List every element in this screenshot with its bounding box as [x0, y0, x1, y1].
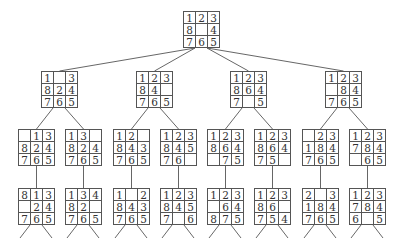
blank-tile: [90, 201, 102, 213]
tile: 3: [185, 189, 197, 201]
tile: 4: [43, 142, 55, 154]
tile: 8: [19, 142, 31, 154]
tile: 3: [374, 189, 386, 201]
tile: 4: [208, 24, 220, 36]
tile: 6: [185, 213, 197, 225]
tile: 4: [255, 84, 267, 96]
tile: 8: [208, 142, 220, 154]
tile: 1: [255, 130, 267, 142]
tile: 2: [173, 189, 185, 201]
tile: 2: [78, 201, 90, 213]
tile: 4: [173, 142, 185, 154]
tile: 7: [42, 96, 54, 108]
tile: 3: [350, 72, 362, 84]
tile: 8: [114, 142, 126, 154]
tree-edge: [231, 225, 241, 238]
tile: 3: [43, 130, 55, 142]
tile: 3: [78, 189, 90, 201]
puzzle-state-l1d: 12384765: [325, 71, 362, 108]
tile: 6: [315, 213, 327, 225]
tile: 1: [255, 189, 267, 201]
tile: 2: [54, 84, 66, 96]
tile: 1: [114, 130, 126, 142]
tile: 5: [232, 213, 244, 225]
tile: 4: [232, 142, 244, 154]
tile: 3: [279, 130, 291, 142]
tree-edge: [37, 108, 54, 129]
tile: 7: [184, 36, 196, 48]
puzzle-state-l3a: 81324765: [18, 188, 55, 225]
tile: 4: [90, 189, 102, 201]
tile: 7: [255, 154, 267, 166]
tree-edge: [256, 225, 266, 238]
tree-edge: [278, 225, 288, 238]
tile: 6: [362, 154, 374, 166]
tile: 2: [31, 142, 43, 154]
tile: 4: [232, 201, 244, 213]
tile: 3: [185, 130, 197, 142]
tile: 5: [66, 96, 78, 108]
puzzle-state-l2e: 12386475: [207, 129, 244, 166]
tile: 4: [90, 142, 102, 154]
tile: 5: [232, 154, 244, 166]
tile: 2: [126, 130, 138, 142]
tile: 1: [303, 201, 315, 213]
blank-tile: [208, 201, 220, 213]
tile: 6: [78, 213, 90, 225]
puzzle-state-root: 12384765: [183, 11, 220, 48]
tile: 7: [19, 154, 31, 166]
tile: 7: [350, 201, 362, 213]
tile: 2: [243, 72, 255, 84]
tile: 5: [327, 213, 339, 225]
puzzle-state-l2a: 13824765: [18, 129, 55, 166]
tile: 2: [138, 189, 150, 201]
blank-tile: [173, 213, 185, 225]
tile: 2: [315, 130, 327, 142]
puzzle-state-l1b: 12384765: [136, 71, 173, 108]
tile: 4: [149, 84, 161, 96]
tile: 8: [66, 201, 78, 213]
puzzle-state-l3b: 13482765: [65, 188, 102, 225]
tile: 1: [114, 189, 126, 201]
tile: 2: [362, 130, 374, 142]
tile: 6: [149, 96, 161, 108]
puzzle-state-l2f: 12386475: [254, 129, 291, 166]
tile: 4: [66, 84, 78, 96]
tree-edge: [65, 108, 84, 129]
tile: 3: [327, 189, 339, 201]
tile: 3: [138, 142, 150, 154]
tile: 5: [185, 201, 197, 213]
puzzle-state-l1a: 13824765: [41, 71, 78, 108]
tile: 3: [232, 189, 244, 201]
tile: 7: [231, 96, 243, 108]
tile: 3: [138, 201, 150, 213]
tile: 7: [303, 213, 315, 225]
tile: 6: [267, 201, 279, 213]
tree-edge: [137, 225, 147, 238]
blank-tile: [315, 189, 327, 201]
tree-edge: [115, 225, 125, 238]
tile: 7: [161, 154, 173, 166]
blank-tile: [185, 154, 197, 166]
puzzle-state-l3e: 12364875: [207, 188, 244, 225]
blank-tile: [350, 154, 362, 166]
puzzle-state-l3h: 12378465: [349, 188, 386, 225]
tile: 3: [43, 189, 55, 201]
tile: 3: [66, 72, 78, 84]
tile: 7: [255, 213, 267, 225]
tile: 5: [90, 154, 102, 166]
tile: 8: [315, 201, 327, 213]
tile: 4: [327, 142, 339, 154]
tile: 5: [350, 96, 362, 108]
tile: 2: [31, 201, 43, 213]
blank-tile: [19, 130, 31, 142]
tile: 6: [126, 213, 138, 225]
tile: 5: [327, 154, 339, 166]
tile: 7: [350, 142, 362, 154]
tile: 1: [137, 72, 149, 84]
tree-edge: [209, 225, 219, 238]
tile: 5: [138, 213, 150, 225]
search-tree-diagram: 1238476513824765123847651238647512384765…: [0, 0, 401, 245]
tile: 8: [66, 142, 78, 154]
tile: 5: [374, 213, 386, 225]
